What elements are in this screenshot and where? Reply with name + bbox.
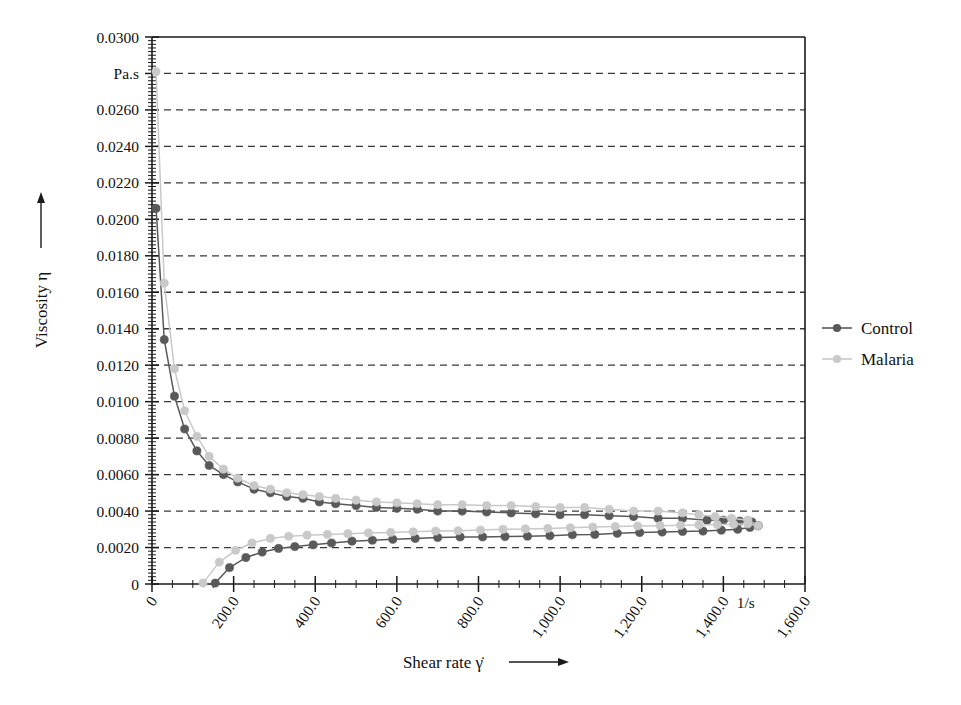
data-point-marker [193, 432, 201, 440]
y-tick-label: 0.0140 [96, 320, 139, 337]
data-point-marker [476, 526, 484, 534]
y-tick-label: 0.0060 [96, 466, 139, 483]
data-point-marker [754, 522, 762, 530]
data-point-marker [713, 520, 721, 528]
data-point-marker [205, 461, 213, 469]
data-point-marker [283, 489, 291, 497]
data-point-marker [532, 510, 540, 518]
data-point-marker [170, 392, 178, 400]
y-tick-label: 0.0160 [96, 284, 139, 301]
data-point-marker [364, 529, 372, 537]
data-point-marker [199, 579, 207, 587]
y-tick-label: 0.0040 [96, 503, 139, 520]
legend-marker-icon [833, 324, 841, 332]
data-point-marker [285, 532, 293, 540]
chart-canvas: 00.00200.00400.00600.00800.01000.01200.0… [0, 0, 961, 705]
y-tick-label: 0.0200 [96, 211, 139, 228]
data-point-marker [160, 336, 168, 344]
data-point-marker [458, 501, 466, 509]
data-point-marker [744, 520, 752, 528]
data-point-marker [729, 520, 737, 528]
data-point-marker [181, 407, 189, 415]
y-tick-label: 0.0080 [96, 430, 139, 447]
data-point-marker [566, 524, 574, 532]
data-point-marker [193, 447, 201, 455]
data-point-marker [291, 543, 299, 551]
data-point-marker [152, 204, 160, 212]
data-point-marker [654, 514, 662, 522]
data-point-marker [205, 452, 213, 460]
data-point-marker [266, 534, 274, 542]
data-point-marker [678, 509, 686, 517]
data-point-marker [323, 530, 331, 538]
data-point-marker [352, 496, 360, 504]
viscosity-shear-rate-chart: 00.00200.00400.00600.00800.01000.01200.0… [0, 0, 961, 705]
data-point-marker [544, 524, 552, 532]
legend-label-text: Malaria [861, 350, 914, 369]
data-point-marker [413, 500, 421, 508]
data-point-marker [654, 507, 662, 515]
data-point-marker [344, 530, 352, 538]
y-tick-label: 0.0240 [96, 138, 139, 155]
data-point-marker [274, 544, 282, 552]
data-point-marker [242, 553, 250, 561]
data-point-marker [676, 521, 684, 529]
y-tick-label: 0.0100 [96, 393, 139, 410]
data-point-marker [611, 522, 619, 530]
data-point-marker [499, 525, 507, 533]
data-point-marker [703, 516, 711, 524]
data-point-marker [711, 512, 719, 520]
data-point-marker [258, 548, 266, 556]
data-point-marker [432, 527, 440, 535]
data-point-marker [152, 68, 160, 76]
data-point-marker [393, 499, 401, 507]
data-point-marker [532, 502, 540, 510]
data-point-marker [248, 539, 256, 547]
data-point-marker [225, 563, 233, 571]
y-tick-label: 0.0120 [96, 357, 139, 374]
data-point-marker [266, 485, 274, 493]
x-axis-unit-label: 1/s [737, 594, 755, 611]
data-point-marker [332, 494, 340, 502]
data-point-marker [483, 502, 491, 510]
y-tick-label: 0.0180 [96, 247, 139, 264]
data-point-marker [211, 579, 219, 587]
data-point-marker [434, 501, 442, 509]
data-point-marker [181, 425, 189, 433]
data-point-marker [556, 503, 564, 511]
data-point-marker [523, 532, 531, 540]
y-tick-label: 0 [131, 576, 139, 593]
y-axis-unit-label: Pa.s [114, 65, 139, 82]
data-point-marker [232, 546, 240, 554]
y-tick-label: 0.0020 [96, 539, 139, 556]
data-point-marker [348, 537, 356, 545]
data-point-marker [215, 558, 223, 566]
data-point-marker [327, 539, 335, 547]
data-point-marker [634, 522, 642, 530]
data-point-marker [556, 511, 564, 519]
y-tick-label: 0.0300 [96, 29, 139, 46]
data-point-marker [589, 523, 597, 531]
data-point-marker [521, 525, 529, 533]
y-axis-title-text: Viscosity η [32, 272, 51, 348]
data-point-marker [303, 531, 311, 539]
data-point-marker [507, 509, 515, 517]
data-point-marker [234, 474, 242, 482]
data-point-marker [387, 528, 395, 536]
legend-marker-icon [833, 355, 841, 363]
data-point-marker [695, 521, 703, 529]
data-point-marker [372, 498, 380, 506]
data-point-marker [629, 507, 637, 515]
x-axis-title-text: Shear rate γ̇ [403, 653, 484, 672]
data-point-marker [309, 541, 317, 549]
data-point-marker [170, 365, 178, 373]
y-tick-label: 0.0260 [96, 101, 139, 118]
legend-label-text: Control [861, 319, 913, 338]
data-point-marker [250, 481, 258, 489]
data-point-marker [591, 530, 599, 538]
data-point-marker [581, 503, 589, 511]
data-point-marker [160, 279, 168, 287]
data-point-marker [507, 502, 515, 510]
data-point-marker [581, 511, 589, 519]
data-point-marker [409, 528, 417, 536]
